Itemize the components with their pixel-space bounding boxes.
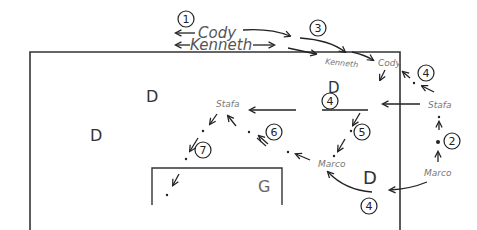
ball-dot-marco <box>287 151 289 153</box>
ball-dot-5b <box>333 155 335 157</box>
label-marco-right: Marco <box>424 168 452 178</box>
step-3-marker: 3 <box>310 20 326 36</box>
step-4-arrow-corner <box>403 72 410 78</box>
step-5-arrow-a <box>353 113 360 125</box>
ball-dot-2 <box>436 140 440 144</box>
marco-right-curve <box>390 182 427 190</box>
play-diagram: 1 Cody Kenneth 3 Kenneth Cody 4 Stafa D … <box>0 0 477 230</box>
step-5-marker: 5 <box>354 124 370 140</box>
ball-dot-2a <box>438 116 440 118</box>
label-cody-field: Cody <box>378 58 402 68</box>
ball-dot-7 <box>185 158 187 160</box>
step-3-arrow-upper <box>300 38 345 52</box>
ball-dot-6 <box>248 131 250 133</box>
marco-pass-arrow <box>296 154 310 160</box>
step-4-arrow-top <box>422 86 434 92</box>
label-marco-mid: Marco <box>318 159 346 169</box>
stafa-mid-arrow-right <box>228 116 236 126</box>
goalkeeper: G <box>258 177 270 196</box>
step-6-arrow <box>259 136 268 144</box>
kenneth-field-arrow <box>288 48 316 54</box>
shot-arrow <box>173 174 179 185</box>
label-kenneth-field: Kenneth <box>325 57 359 69</box>
step-5-arrow-b <box>338 139 345 151</box>
step-4-marker-top: 4 <box>418 65 434 81</box>
diagram-canvas: 1 Cody Kenneth 3 Kenneth Cody 4 Stafa D … <box>0 0 477 230</box>
ball-dot <box>413 82 415 84</box>
defender-upper-left: D <box>146 87 158 106</box>
svg-text:1: 1 <box>183 13 190 26</box>
label-kenneth-top: Kenneth <box>190 36 252 54</box>
cody-down-arrow <box>380 70 385 80</box>
defender-bottom-right: D <box>363 167 377 188</box>
svg-text:5: 5 <box>359 126 366 139</box>
ball-dot-5 <box>350 130 352 132</box>
ball-dot-shot <box>166 194 168 196</box>
svg-text:3: 3 <box>315 22 322 35</box>
label-stafa-mid: Stafa <box>216 99 239 109</box>
svg-text:4: 4 <box>327 95 334 108</box>
step-2-marker: 2 <box>444 133 460 149</box>
svg-text:6: 6 <box>271 126 278 139</box>
svg-text:4: 4 <box>366 200 373 213</box>
step-6-marker: 6 <box>266 124 282 140</box>
stafa-mid-arrow-left <box>210 114 217 124</box>
label-stafa-right: Stafa <box>428 100 451 110</box>
step-7-marker: 7 <box>195 142 211 158</box>
defender-left: D <box>90 126 102 145</box>
step-1-marker: 1 <box>178 11 194 27</box>
step-6-arrow-double <box>257 138 266 146</box>
cody-field-arrow <box>352 52 373 60</box>
svg-text:7: 7 <box>200 144 207 157</box>
step-4-marker-mid: 4 <box>322 93 338 109</box>
svg-text:4: 4 <box>423 67 430 80</box>
ball-dot-7a <box>202 130 204 132</box>
svg-text:2: 2 <box>449 135 456 148</box>
step-4-marker-bottom: 4 <box>361 198 377 214</box>
